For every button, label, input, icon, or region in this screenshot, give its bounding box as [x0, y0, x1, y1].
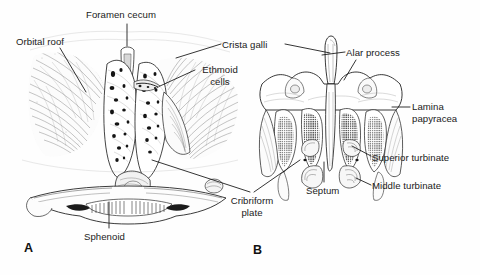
label-sphenoid: Sphenoid [84, 231, 125, 243]
leader-crista-galli-right [285, 44, 330, 53]
label-alar-process: Alar process [346, 47, 400, 59]
label-middle-turbinate: Middle turbinate [372, 180, 441, 192]
crista-galli-b [325, 36, 337, 84]
septum-structure [326, 84, 336, 171]
sphenoid-drawing [27, 179, 226, 224]
label-crista-galli: Crista galli [222, 39, 267, 51]
label-cribriform-plate: Cribriform plate [224, 195, 280, 218]
label-foramen-cecum: Foramen cecum [86, 9, 156, 21]
label-lamina-papyracea: Lamina papyracea [412, 101, 457, 124]
label-septum: Septum [306, 185, 339, 197]
label-orbital-roof: Orbital roof [16, 36, 64, 48]
label-ethmoid-cells: Ethmoid cells [196, 64, 244, 87]
panel-letter-b: B [253, 243, 262, 257]
leader-crista-galli-left [176, 44, 221, 58]
label-superior-turbinate: Superior turbinate [372, 152, 449, 164]
panel-a-drawing [20, 31, 250, 224]
ethmoid-labyrinth-left [104, 60, 137, 178]
panel-b-drawing [259, 36, 402, 200]
anatomy-figure: Orbital roof Foramen cecum Crista galli … [0, 0, 480, 275]
panel-letter-a: A [24, 241, 33, 255]
